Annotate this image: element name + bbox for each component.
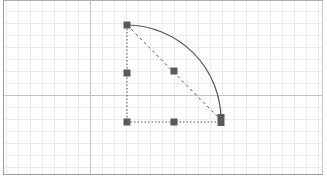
grid bbox=[4, 1, 322, 174]
handle-arc-end[interactable] bbox=[218, 114, 225, 126]
canvas-drawing bbox=[0, 0, 327, 178]
handle-bottom-mid[interactable] bbox=[171, 119, 178, 126]
handle-left-mid[interactable] bbox=[124, 70, 131, 77]
handle-center[interactable] bbox=[171, 68, 178, 75]
handle-corner[interactable] bbox=[124, 119, 131, 126]
handle-arc-start[interactable] bbox=[124, 22, 131, 29]
